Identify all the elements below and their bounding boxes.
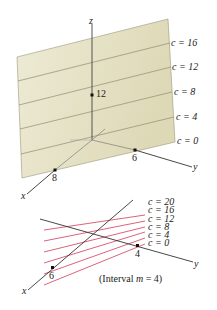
- level-curves-figure: z x y 12 8 6 c = 16 c = 12 c = 8 c = 4 c…: [0, 0, 217, 310]
- y-intercept-label-2d: 4: [135, 248, 140, 259]
- caption-var: m: [136, 273, 143, 284]
- caption-prefix: (Interval: [99, 273, 136, 285]
- y-intercept-label: 6: [132, 152, 137, 163]
- plane-3d-diagram: z x y 12 8 6 c = 16 c = 12 c = 8 c = 4 c…: [17, 15, 198, 201]
- caption-suffix: = 4): [143, 273, 162, 285]
- x-intercept-label-2d: 6: [49, 270, 54, 281]
- z-intercept-point: [91, 94, 94, 97]
- z-intercept-label: 12: [96, 88, 106, 99]
- level-label-2d-c0: c = 0: [148, 237, 169, 248]
- z-axis-label: z: [88, 15, 93, 26]
- level-label-c8: c = 8: [174, 86, 195, 97]
- interval-caption: (Interval m = 4): [99, 273, 162, 285]
- y-axis-label: y: [192, 161, 198, 172]
- y-axis-label-2d: y: [193, 258, 199, 269]
- x-intercept-point-2d: [51, 266, 54, 269]
- y-intercept-point-2d: [136, 244, 139, 247]
- x-intercept-label: 8: [52, 172, 57, 183]
- level-label-c4: c = 4: [176, 111, 197, 122]
- level-label-c12: c = 12: [172, 61, 198, 72]
- level-label-c16: c = 16: [171, 37, 197, 48]
- y-axis-front: [135, 150, 192, 167]
- level-label-c0: c = 0: [177, 135, 198, 146]
- x-axis-label-2d: x: [21, 285, 27, 296]
- level-curves-2d-diagram: x y 6 4 c = 20 c = 16 c = 12 c = 8 c = 4…: [21, 196, 199, 296]
- x-axis-label: x: [20, 190, 26, 201]
